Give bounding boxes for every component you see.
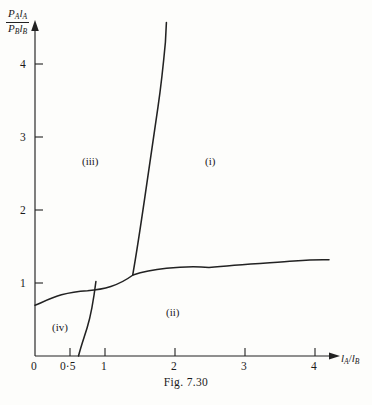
y-tick-label-3: 3 <box>20 132 26 144</box>
x-axis-arrowhead <box>329 352 340 359</box>
y-tick-label-2: 2 <box>20 205 26 217</box>
x-tick-label-0p5: 0·5 <box>60 361 76 373</box>
region-label-ii: (ii) <box>166 307 179 318</box>
x-tick-label-3: 3 <box>241 361 247 373</box>
figure-container: PAlA PBlB lA/lB 1 2 3 4 0 0·5 1 2 3 4 (i… <box>0 0 372 405</box>
y-axis-label-numerator: PAlA <box>6 8 29 23</box>
x-tick-label-0: 0 <box>31 361 37 373</box>
region-label-i: (i) <box>205 156 215 167</box>
y-label-p-b: P <box>8 22 15 34</box>
x-tick-label-2: 2 <box>171 361 177 373</box>
curve-boundary-steep <box>133 23 167 276</box>
curve-boundary-region-iv <box>79 282 96 357</box>
region-label-iii: (iii) <box>82 156 99 167</box>
y-axis-label-denominator: PBlB <box>6 23 29 37</box>
y-tick-label-4: 4 <box>20 59 26 71</box>
x-tick-label-1: 1 <box>101 361 107 373</box>
plot-area <box>0 0 372 405</box>
x-tick-label-4: 4 <box>311 361 317 373</box>
y-tick-label-1: 1 <box>20 278 26 290</box>
region-label-iv: (iv) <box>52 322 68 333</box>
y-axis-arrowhead <box>31 20 39 31</box>
curve-boundary-upper <box>35 260 329 306</box>
x-axis-label: lA/lB <box>341 352 359 366</box>
y-axis-label: PAlA PBlB <box>6 8 29 37</box>
figure-caption: Fig. 7.30 <box>0 376 372 388</box>
y-label-p-a: P <box>8 7 15 19</box>
